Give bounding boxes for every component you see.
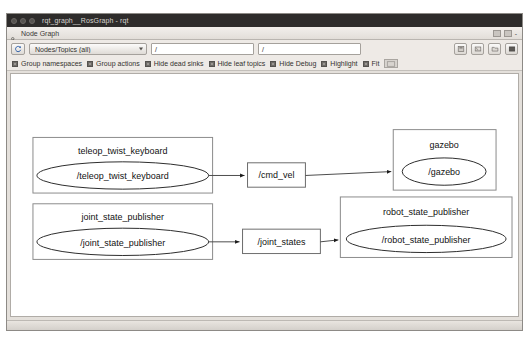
topic-label: /joint_states (258, 237, 306, 247)
plugin-title: Node Graph (21, 30, 59, 37)
checkbox-label: Hide dead sinks (154, 60, 204, 67)
topic-joint-states[interactable]: /joint_states (243, 229, 321, 253)
screenshot-root: rqt_graph__RosGraph - rqt Node Graph - (0, 0, 529, 344)
checkbox-highlight[interactable]: Highlight (321, 60, 357, 67)
graph-svg: teleop_twist_keyboard /teleop_twist_keyb… (11, 74, 518, 316)
group-gazebo[interactable]: gazebo /gazebo (393, 130, 496, 191)
status-bar (7, 320, 522, 330)
checkbox-label: Hide Debug (279, 60, 316, 67)
topic-cmd-vel[interactable]: /cmd_vel (248, 163, 306, 187)
toolbar-options-row: Group namespaces Group actions Hide dead… (11, 59, 518, 68)
group-label: robot_state_publisher (383, 208, 469, 218)
group-label: teleop_twist_keyboard (78, 146, 167, 156)
checkbox-label: Fit (372, 60, 380, 67)
checkbox-indicator (145, 61, 151, 67)
node-label: /teleop_twist_keyboard (77, 171, 169, 181)
graph-canvas-wrap: teleop_twist_keyboard /teleop_twist_keyb… (7, 71, 522, 320)
checkbox-label: Group actions (96, 60, 140, 67)
checkbox-hide-dead-sinks[interactable]: Hide dead sinks (145, 60, 204, 67)
minimize-window-button[interactable] (20, 18, 26, 24)
node-label: /gazebo (428, 168, 460, 178)
group-robot-state-publisher[interactable]: robot_state_publisher /robot_state_publi… (340, 197, 512, 257)
window-title: rqt_graph__RosGraph - rqt (42, 17, 129, 24)
node-filter-input[interactable]: / (151, 43, 254, 55)
edge-jointstates-to-rsp (320, 240, 338, 242)
window-titlebar: rqt_graph__RosGraph - rqt (7, 14, 522, 27)
checkbox-indicator (321, 61, 327, 67)
checkbox-fit[interactable]: Fit (363, 60, 380, 67)
image-icon (474, 45, 482, 53)
topic-filter-input[interactable]: / (258, 43, 361, 55)
group-joint-state-publisher[interactable]: joint_state_publisher /joint_state_publi… (33, 204, 213, 260)
refresh-button[interactable] (11, 43, 25, 55)
save-dot-button[interactable] (454, 43, 467, 55)
checkbox-hide-debug[interactable]: Hide Debug (270, 60, 316, 67)
toolbar-filter-row: Nodes/Topics (all) / / (11, 43, 518, 55)
chevron-down-icon (139, 48, 143, 51)
group-teleop-twist-keyboard[interactable]: teleop_twist_keyboard /teleop_twist_keyb… (33, 137, 213, 193)
group-label: joint_state_publisher (81, 212, 164, 222)
toolbar: Nodes/Topics (all) / / (7, 40, 522, 71)
refresh-icon (14, 45, 22, 53)
checkbox-label: Highlight (330, 60, 357, 67)
folder-icon (491, 45, 499, 53)
rqt-window: rqt_graph__RosGraph - rqt Node Graph - (6, 13, 523, 331)
node-label: /robot_state_publisher (382, 235, 471, 245)
edge-cmdvel-to-gazebo (305, 172, 391, 176)
close-window-button[interactable] (11, 18, 17, 24)
maximize-window-button[interactable] (29, 18, 35, 24)
checkbox-group-actions[interactable]: Group actions (87, 60, 140, 67)
fit-extra-button[interactable] (384, 59, 398, 68)
save-image-button[interactable] (471, 43, 484, 55)
fullscreen-button[interactable] (505, 43, 518, 55)
checkbox-label: Hide leaf topics (218, 60, 266, 67)
plugin-dash: - (515, 30, 517, 37)
load-button[interactable] (488, 43, 501, 55)
plugin-header-buttons: - (493, 30, 518, 37)
checkbox-indicator (209, 61, 215, 67)
window-controls (11, 18, 35, 24)
graph-canvas[interactable]: teleop_twist_keyboard /teleop_twist_keyb… (10, 73, 519, 317)
close-button[interactable] (504, 30, 512, 37)
node-label: /joint_state_publisher (80, 238, 165, 248)
checkbox-indicator (12, 61, 18, 67)
checkbox-group-namespaces[interactable]: Group namespaces (12, 60, 82, 67)
topic-label: /cmd_vel (259, 171, 295, 181)
checkbox-indicator (87, 61, 93, 67)
checkbox-indicator (270, 61, 276, 67)
screen-icon (508, 45, 516, 53)
save-icon (457, 45, 465, 53)
plugin-header: Node Graph - (7, 27, 522, 40)
filter-mode-select[interactable]: Nodes/Topics (all) (29, 43, 147, 55)
toolbar-actions (454, 43, 518, 55)
group-label: gazebo (429, 140, 459, 150)
checkbox-indicator (363, 61, 369, 67)
filter-mode-value: Nodes/Topics (all) (35, 46, 91, 53)
graph-icon (11, 30, 18, 37)
float-button[interactable] (493, 30, 501, 37)
checkbox-hide-leaf-topics[interactable]: Hide leaf topics (209, 60, 266, 67)
checkbox-label: Group namespaces (21, 60, 82, 67)
